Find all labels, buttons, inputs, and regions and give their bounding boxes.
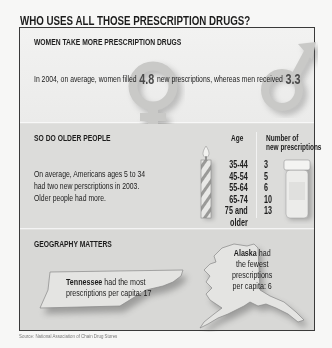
infographic-frame: WOMEN TAKE MORE PRESCRIPTION DRUGS bbox=[19, 27, 315, 331]
number-column-header: Number of new prescriptions bbox=[266, 134, 321, 152]
birthday-candle-icon bbox=[196, 144, 218, 224]
count-values: 3 5 6 10 13 bbox=[264, 159, 272, 217]
gender-panel: WOMEN TAKE MORE PRESCRIPTION DRUGS bbox=[20, 28, 314, 123]
age-text-line: On average, Americans ages 5 to 34 bbox=[34, 168, 145, 180]
source-note: Source: National Association of Chain Dr… bbox=[19, 333, 117, 339]
age-cell: 35-44 bbox=[225, 159, 248, 171]
women-value: 4.8 bbox=[139, 73, 155, 85]
gender-text-middle: new prescriptions, whereas men received bbox=[157, 73, 283, 84]
alaska-text: Alaska had the fewest prescriptions per … bbox=[232, 247, 272, 291]
age-cell: 65-74 bbox=[225, 194, 248, 206]
column-divider bbox=[256, 132, 257, 218]
gender-text: In 2004, on average, women filled 4.8 ne… bbox=[34, 73, 301, 85]
geography-heading: GEOGRAPHY MATTERS bbox=[34, 239, 112, 249]
tennessee-line2: prescriptions per capita: 17 bbox=[66, 287, 152, 298]
age-text-line: Older people had more. bbox=[34, 192, 145, 204]
age-cell: 45-54 bbox=[225, 171, 248, 183]
age-values: 35-44 45-54 55-64 65-74 75 and older bbox=[225, 159, 248, 228]
age-text-line: had two new perscriptions in 2003. bbox=[34, 180, 145, 192]
age-cell: 75 and bbox=[225, 205, 248, 217]
alaska-name: Alaska bbox=[234, 247, 257, 258]
age-panel: SO DO OLDER PEOPLE On average, Americans… bbox=[20, 124, 314, 229]
count-cell: 13 bbox=[264, 205, 272, 217]
alaska-line1: had bbox=[257, 247, 271, 258]
age-column-header: Age bbox=[231, 134, 243, 143]
number-header-line2: new prescriptions bbox=[266, 143, 321, 152]
age-text: On average, Americans ages 5 to 34 had t… bbox=[34, 168, 145, 204]
alaska-line3: prescriptions bbox=[232, 269, 272, 280]
geography-panel: GEOGRAPHY MATTERS Tennessee had the most… bbox=[20, 230, 314, 330]
alaska-line2: the fewest bbox=[232, 258, 272, 269]
tennessee-name: Tennessee bbox=[66, 276, 102, 287]
gender-text-before: In 2004, on average, women filled bbox=[34, 73, 137, 84]
age-cell: 55-64 bbox=[225, 182, 248, 194]
men-value: 3.3 bbox=[285, 73, 301, 85]
count-cell: 5 bbox=[264, 171, 272, 183]
age-heading: SO DO OLDER PEOPLE bbox=[34, 133, 111, 143]
tennessee-text: Tennessee had the most prescriptions per… bbox=[66, 276, 152, 298]
gender-heading: WOMEN TAKE MORE PRESCRIPTION DRUGS bbox=[34, 37, 181, 47]
infographic-title: WHO USES ALL THOSE PRESCRIPTION DRUGS? bbox=[20, 14, 250, 28]
alaska-line4: per capita: 6 bbox=[232, 280, 272, 291]
count-cell: 6 bbox=[264, 182, 272, 194]
count-cell: 10 bbox=[264, 194, 272, 206]
age-cell: older bbox=[225, 217, 248, 229]
count-cell: 3 bbox=[264, 159, 272, 171]
pill-bottle-icon bbox=[282, 158, 316, 224]
tennessee-line1: had the most bbox=[102, 276, 145, 287]
